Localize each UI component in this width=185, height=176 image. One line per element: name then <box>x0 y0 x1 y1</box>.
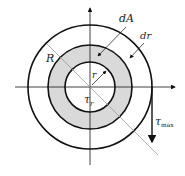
label-dA: dA <box>119 12 134 25</box>
label-tau-max: τmax <box>155 115 174 128</box>
dr-leader <box>130 43 144 58</box>
torsion-diagram: dA dr R r τr τmax <box>0 0 185 176</box>
label-tau-r: τr <box>84 93 94 108</box>
label-dr: dr <box>140 30 152 41</box>
label-R: R <box>45 52 54 65</box>
label-r: r <box>92 70 97 80</box>
